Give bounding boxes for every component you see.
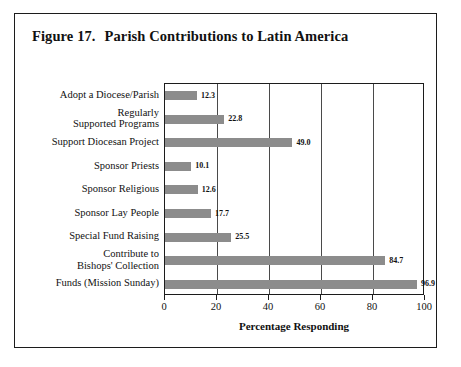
x-axis-tick-label: 20 (211, 301, 222, 312)
bar (165, 280, 417, 289)
bar-row: 25.5 (165, 225, 249, 249)
bar-chart: Adopt a Diocese/ParishRegularly Supporte… (15, 14, 438, 349)
bar-value-label: 49.0 (296, 139, 310, 147)
bar-value-label: 12.6 (202, 186, 216, 194)
bar-row: 84.7 (165, 249, 403, 273)
bar (165, 162, 191, 171)
bar-row: 49.0 (165, 131, 310, 155)
category-label: Funds (Mission Sunday) (19, 277, 164, 289)
x-axis-tick-label: 80 (367, 301, 378, 312)
category-label: Contribute to Bishops' Collection (19, 248, 164, 271)
bar (165, 209, 211, 218)
x-axis-tick (268, 295, 269, 300)
x-axis-tick-label: 40 (263, 301, 274, 312)
bar-row: 10.1 (165, 155, 209, 179)
x-axis-tick-label: 0 (161, 301, 166, 312)
bar-value-label: 84.7 (389, 257, 403, 265)
x-axis-tick-label: 60 (315, 301, 326, 312)
category-label: Sponsor Priests (19, 160, 164, 172)
bar (165, 185, 198, 194)
bar (165, 91, 197, 100)
category-label: Regularly Supported Programs (19, 107, 164, 130)
bar-value-label: 17.7 (215, 210, 229, 218)
bar (165, 115, 224, 124)
x-axis-tick (164, 295, 165, 300)
bar-row: 12.3 (165, 84, 215, 108)
x-axis-tick (372, 295, 373, 300)
category-axis-labels: Adopt a Diocese/ParishRegularly Supporte… (15, 83, 164, 295)
category-label: Sponsor Lay People (19, 207, 164, 219)
x-axis-tick (320, 295, 321, 300)
plot-area: 12.322.849.010.112.617.725.584.796.9 (164, 83, 424, 295)
bar-row: 22.8 (165, 108, 242, 132)
bar-value-label: 22.8 (228, 115, 242, 123)
category-label: Support Diocesan Project (19, 136, 164, 148)
bar-row: 17.7 (165, 202, 229, 226)
bar-row: 12.6 (165, 178, 216, 202)
bar (165, 233, 231, 242)
x-axis-tick-label: 100 (416, 301, 432, 312)
bar-value-label: 10.1 (195, 162, 209, 170)
category-label: Sponsor Religious (19, 183, 164, 195)
bar-value-label: 25.5 (235, 233, 249, 241)
bar-row: 96.9 (165, 272, 435, 296)
bar (165, 138, 292, 147)
x-axis-title: Percentage Responding (164, 320, 424, 332)
bar-value-label: 12.3 (201, 92, 215, 100)
bar (165, 256, 385, 265)
x-axis-tick (424, 295, 425, 300)
figure-frame: Figure 17.Parish Contributions to Latin … (14, 13, 437, 348)
category-label: Special Fund Raising (19, 230, 164, 242)
category-label: Adopt a Diocese/Parish (19, 89, 164, 101)
x-axis-tick (216, 295, 217, 300)
bar-value-label: 96.9 (421, 280, 435, 288)
